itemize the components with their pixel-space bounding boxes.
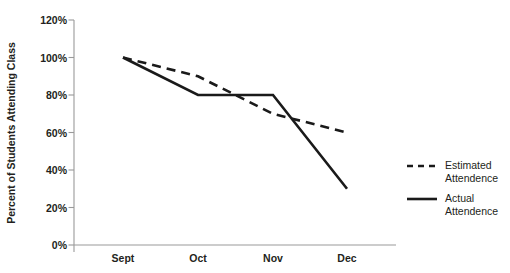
y-tick-label-100: 100% — [40, 52, 68, 64]
chart-canvas: Percent of Students Attending Class 120%… — [0, 0, 510, 273]
legend-label-actual-line1: Actual — [445, 192, 474, 204]
y-tick-label-0: 0% — [52, 239, 68, 251]
x-tick-label-oct: Oct — [189, 252, 207, 264]
x-tick-label-dec: Dec — [337, 252, 356, 264]
y-tick-label-80: 80% — [46, 89, 68, 101]
x-tick-label-sept: Sept — [112, 252, 135, 264]
y-tick-label-120: 120% — [40, 14, 68, 26]
chart-legend: Estimated Attendence Actual Attendence — [407, 159, 498, 217]
y-tick-label-40: 40% — [46, 164, 68, 176]
y-tick-label-20: 20% — [46, 202, 68, 214]
y-axis-title: Percent of Students Attending Class — [5, 42, 17, 224]
x-tick-label-nov: Nov — [263, 252, 283, 264]
y-tick-label-60: 60% — [46, 127, 68, 139]
legend-label-estimated-line2: Attendence — [445, 172, 498, 184]
legend-label-estimated-line1: Estimated — [445, 159, 492, 171]
legend-label-actual-line2: Attendence — [445, 205, 498, 217]
attendance-line-chart: Percent of Students Attending Class 120%… — [0, 0, 510, 273]
